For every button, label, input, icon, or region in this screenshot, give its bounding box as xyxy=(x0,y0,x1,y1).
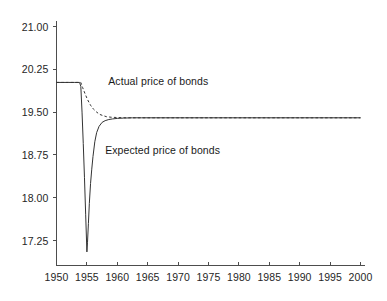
y-tick-label-18-00: 18.00 xyxy=(0,192,49,204)
y-tick-label-21-00: 21.00 xyxy=(0,21,49,33)
x-tick-label-1980: 1980 xyxy=(227,271,251,283)
x-tick-label-1960: 1960 xyxy=(105,271,129,283)
x-tick-label-1985: 1985 xyxy=(257,271,281,283)
x-tick-label-1950: 1950 xyxy=(45,271,69,283)
x-tick-label-1995: 1995 xyxy=(318,271,342,283)
x-tick-label-1955: 1955 xyxy=(75,271,99,283)
y-tick-label-20-25: 20.25 xyxy=(0,63,49,75)
x-tick-label-2000: 2000 xyxy=(349,271,373,283)
series-line-actual-price-of-bonds xyxy=(57,82,361,117)
series-line-expected-price-of-bonds xyxy=(57,82,361,251)
chart-series-lines xyxy=(57,82,361,251)
x-tick-label-1970: 1970 xyxy=(166,271,190,283)
y-tick-label-18-75: 18.75 xyxy=(0,149,49,161)
x-tick-label-1965: 1965 xyxy=(136,271,160,283)
y-tick-label-19-50: 19.50 xyxy=(0,106,49,118)
annotation-actual-price-of-bonds: Actual price of bonds xyxy=(108,75,208,87)
annotation-expected-price-of-bonds: Expected price of bonds xyxy=(105,144,220,156)
y-tick-label-17-25: 17.25 xyxy=(0,235,49,247)
bond-price-chart: 17.2518.0018.7519.5020.2521.00 195019551… xyxy=(0,0,387,301)
x-tick-label-1990: 1990 xyxy=(288,271,312,283)
x-tick-label-1975: 1975 xyxy=(197,271,221,283)
